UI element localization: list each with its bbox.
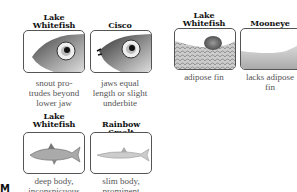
panel-rainbow-smelt-body: Rainbow Smelt slim body, prominent: [90, 112, 152, 192]
illustration-box: [90, 30, 152, 73]
caption-line: adipose fin: [168, 72, 240, 82]
panel-title: Cisco: [90, 13, 150, 29]
caption-line: trudes beyond: [17, 88, 91, 98]
panel-cisco-head: Cisco jaws equal length or slight underb…: [90, 10, 150, 100]
panel-lake-whitefish-fin: Lake Whitefish adipose fin: [174, 3, 234, 93]
panel-caption: lacks adipose fin: [234, 72, 297, 92]
panel-caption: snout pro- trudes beyond lower jaw: [17, 78, 91, 108]
title-line: Mooneye: [240, 19, 297, 27]
cisco-head-icon: [91, 31, 151, 72]
whitefish-head-icon: [24, 31, 84, 72]
caption-line: prominent: [84, 186, 158, 192]
panel-lake-whitefish-body: Lake Whitefish deep body, inconspicuous: [23, 112, 85, 192]
caption-line: inconspicuous: [17, 186, 91, 192]
panel-lake-whitefish-head: Lake Whitefish snout pro- trudes beyond …: [23, 10, 85, 100]
illustration-box: [90, 132, 152, 174]
illustration-box: [174, 28, 236, 70]
panel-caption: slim body, prominent: [84, 176, 158, 192]
caption-line: fin: [234, 82, 297, 92]
illustration-box: [23, 30, 85, 73]
caption-line: deep body,: [17, 176, 91, 186]
caption-line: length or slight: [84, 88, 156, 98]
caption-line: lacks adipose: [234, 72, 297, 82]
illustration-box: [240, 28, 297, 70]
panel-caption: jaws equal length or slight underbite: [84, 78, 156, 108]
panel-title: Lake Whitefish: [23, 112, 85, 128]
title-line: Cisco: [90, 21, 150, 29]
title-line: Whitefish: [23, 120, 85, 128]
panel-title: Lake Whitefish: [23, 13, 85, 29]
title-line: Whitefish: [174, 19, 234, 27]
caption-line: lower jaw: [17, 98, 91, 108]
adipose-fin-icon: [175, 29, 235, 69]
panel-title: Mooneye: [240, 11, 297, 27]
caption-line: underbite: [84, 98, 156, 108]
caption-line: snout pro-: [17, 78, 91, 88]
title-line: Whitefish: [23, 21, 85, 29]
caption-line: slim body,: [84, 176, 158, 186]
whitefish-body-icon: [24, 133, 84, 173]
corner-mark: M: [0, 183, 10, 192]
panel-caption: deep body, inconspicuous: [17, 176, 91, 192]
caption-line: jaws equal: [84, 78, 156, 88]
panel-title: Lake Whitefish: [174, 11, 234, 27]
illustration-box: [23, 132, 85, 174]
smelt-body-icon: [91, 133, 151, 173]
panel-caption: adipose fin: [168, 72, 240, 82]
panel-mooneye-fin: Mooneye lacks adipose fin: [240, 3, 297, 93]
no-adipose-fin-icon: [241, 29, 297, 69]
